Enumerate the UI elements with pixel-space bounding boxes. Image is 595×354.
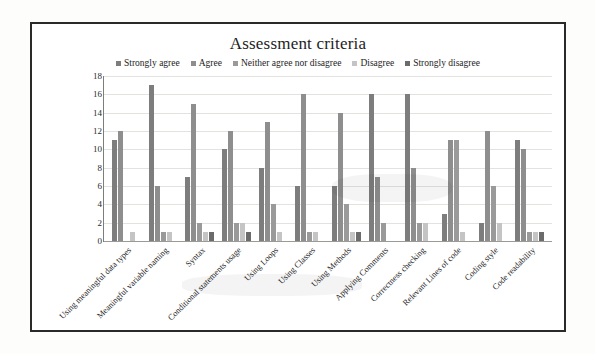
bar[interactable] [209, 232, 214, 241]
bar[interactable] [527, 232, 532, 241]
bar-group [511, 76, 548, 241]
bar[interactable] [240, 223, 245, 241]
bar-group [291, 76, 328, 241]
legend-item[interactable]: Neither agree nor disagree [233, 58, 342, 68]
bar[interactable] [228, 131, 233, 241]
bar[interactable] [515, 140, 520, 241]
x-axis-category-label: Coding style [462, 245, 500, 283]
bar[interactable] [521, 149, 526, 241]
legend-item[interactable]: Disagree [352, 58, 394, 68]
legend-item[interactable]: Strongly disagree [405, 58, 480, 68]
bar-group [401, 76, 438, 241]
y-axis-tick-label: 2 [78, 218, 102, 228]
bar-group [255, 76, 292, 241]
y-axis-tick-label: 4 [78, 199, 102, 209]
bar[interactable] [167, 232, 172, 241]
bar[interactable] [423, 223, 428, 241]
bar[interactable] [442, 214, 447, 242]
x-axis-category-label: Meaningful variable naming [95, 245, 171, 321]
bar[interactable] [149, 85, 154, 241]
x-axis-labels: Using meaningful data typesMeaningful va… [104, 243, 552, 353]
legend-swatch-icon [352, 61, 357, 66]
bar-group [218, 76, 255, 241]
legend-item[interactable]: Strongly agree [116, 58, 180, 68]
bar[interactable] [497, 223, 502, 241]
bar[interactable] [234, 223, 239, 241]
bar[interactable] [301, 94, 306, 241]
scan-smudge [182, 274, 362, 296]
bar-group [438, 76, 475, 241]
bar-group [328, 76, 365, 241]
y-axis-tick-label: 10 [78, 144, 102, 154]
bar[interactable] [369, 94, 374, 241]
legend-swatch-icon [405, 61, 410, 66]
legend-swatch-icon [191, 61, 196, 66]
bar[interactable] [307, 232, 312, 241]
bar[interactable] [271, 204, 276, 241]
y-axis-tick-label: 8 [78, 163, 102, 173]
legend-swatch-icon [116, 61, 121, 66]
chart-frame: Assessment criteria Strongly agreeAgreeN… [30, 22, 566, 332]
gridline [104, 241, 552, 242]
bar[interactable] [277, 232, 282, 241]
chart-title: Assessment criteria [32, 34, 564, 54]
legend-swatch-icon [233, 61, 238, 66]
bar[interactable] [185, 177, 190, 241]
bar[interactable] [454, 140, 459, 241]
bar[interactable] [381, 223, 386, 241]
y-axis-ticks: 181614121086420 [78, 76, 102, 241]
bar[interactable] [356, 232, 361, 241]
plot-area [104, 76, 552, 241]
bar[interactable] [539, 232, 544, 241]
legend-label: Neither agree nor disagree [241, 58, 342, 68]
y-axis-tick-label: 14 [78, 108, 102, 118]
bar[interactable] [130, 232, 135, 241]
bar-group [181, 76, 218, 241]
bar[interactable] [491, 186, 496, 241]
bar[interactable] [344, 204, 349, 241]
y-axis-tick-label: 0 [78, 236, 102, 246]
legend-label: Agree [199, 58, 222, 68]
bar[interactable] [191, 104, 196, 242]
x-axis-category-label: Syntax [183, 245, 207, 269]
y-axis-tick-label: 18 [78, 71, 102, 81]
bar[interactable] [295, 186, 300, 241]
bar[interactable] [203, 232, 208, 241]
bar-groups [104, 76, 552, 241]
y-axis-tick-label: 16 [78, 89, 102, 99]
bar-group [108, 76, 145, 241]
chart-legend: Strongly agreeAgreeNeither agree nor dis… [32, 58, 564, 68]
bar[interactable] [112, 140, 117, 241]
bar[interactable] [479, 223, 484, 241]
bar[interactable] [405, 94, 410, 241]
bar-group [145, 76, 182, 241]
bar[interactable] [161, 232, 166, 241]
scan-smudge [332, 174, 452, 202]
bar[interactable] [350, 232, 355, 241]
bar[interactable] [338, 113, 343, 241]
bar-group [365, 76, 402, 241]
y-axis-tick-label: 12 [78, 126, 102, 136]
legend-label: Disagree [360, 58, 394, 68]
legend-item[interactable]: Agree [191, 58, 222, 68]
bar[interactable] [460, 232, 465, 241]
bar[interactable] [118, 131, 123, 241]
bar[interactable] [265, 122, 270, 241]
bar-group [475, 76, 512, 241]
bar[interactable] [313, 232, 318, 241]
bar[interactable] [155, 186, 160, 241]
bar[interactable] [485, 131, 490, 241]
bar[interactable] [246, 232, 251, 241]
bar[interactable] [197, 223, 202, 241]
x-axis-category-label: Using meaningful data types [57, 245, 133, 321]
y-axis-tick-label: 6 [78, 181, 102, 191]
bar[interactable] [222, 149, 227, 241]
legend-label: Strongly agree [124, 58, 180, 68]
bar[interactable] [259, 168, 264, 241]
legend-label: Strongly disagree [413, 58, 480, 68]
bar[interactable] [533, 232, 538, 241]
bar[interactable] [417, 223, 422, 241]
